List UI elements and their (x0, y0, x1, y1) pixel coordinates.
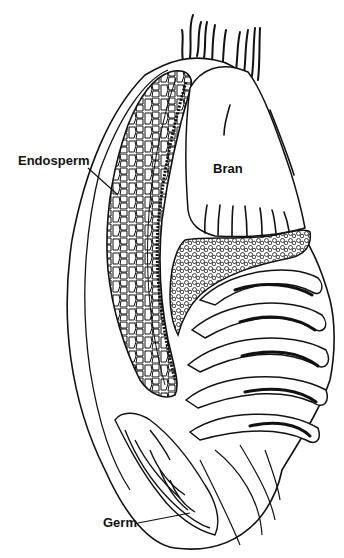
label-bran: Bran (213, 162, 243, 175)
label-endosperm: Endosperm (18, 154, 90, 167)
wheat-kernel-diagram: Endosperm Bran Germ (0, 0, 344, 558)
kernel-illustration (0, 0, 344, 558)
label-germ: Germ (103, 516, 137, 529)
